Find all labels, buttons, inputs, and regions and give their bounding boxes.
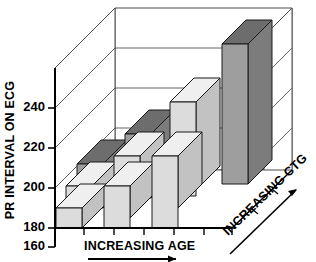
bar-front-face [222, 44, 248, 184]
bar-front-face [152, 156, 178, 228]
y-tick-label-240: 240 [23, 99, 45, 114]
bar-front-face [56, 208, 82, 228]
y-tick-label-200: 200 [23, 179, 45, 194]
bar-ctg3-age3 [222, 20, 272, 184]
y-axis-title: PR INTERVAL ON ECG [3, 81, 17, 219]
bar-side-face [248, 20, 272, 184]
chart-figure: 240 220 200 180 160 PR INTERVAL ON ECG I… [0, 0, 316, 262]
bar-front-face [104, 186, 130, 228]
y-tick-label-220: 220 [23, 139, 45, 154]
y-tick-label-180: 180 [23, 219, 45, 234]
x-axis-arrow-icon [88, 256, 176, 262]
y-tick-label-160: 160 [23, 238, 45, 253]
bar-chart-3d: 240 220 200 180 160 PR INTERVAL ON ECG I… [0, 0, 316, 262]
x-axis-title: INCREASING AGE [84, 239, 195, 253]
y-tick-labels: 240 220 200 180 160 [23, 99, 45, 253]
